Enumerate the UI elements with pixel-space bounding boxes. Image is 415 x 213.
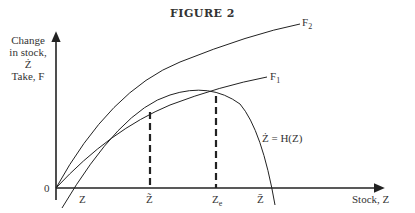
z-min-tick: Z	[79, 193, 86, 205]
origin-label: 0	[44, 182, 50, 194]
f1-label: F1	[270, 70, 280, 85]
f2-label: F2	[302, 16, 312, 31]
z-bar-tick: Z̄	[257, 193, 264, 205]
h-curve-label: Ż = H(Z)	[262, 132, 302, 144]
f2-curve	[56, 24, 300, 188]
diagram-canvas	[0, 0, 415, 213]
f1-curve	[56, 77, 267, 188]
z-e-tick: Ze	[212, 193, 222, 208]
z-tilde-tick: Z̃	[146, 193, 153, 205]
x-axis-label: Stock, Z	[352, 193, 389, 205]
h-curve	[62, 90, 275, 208]
